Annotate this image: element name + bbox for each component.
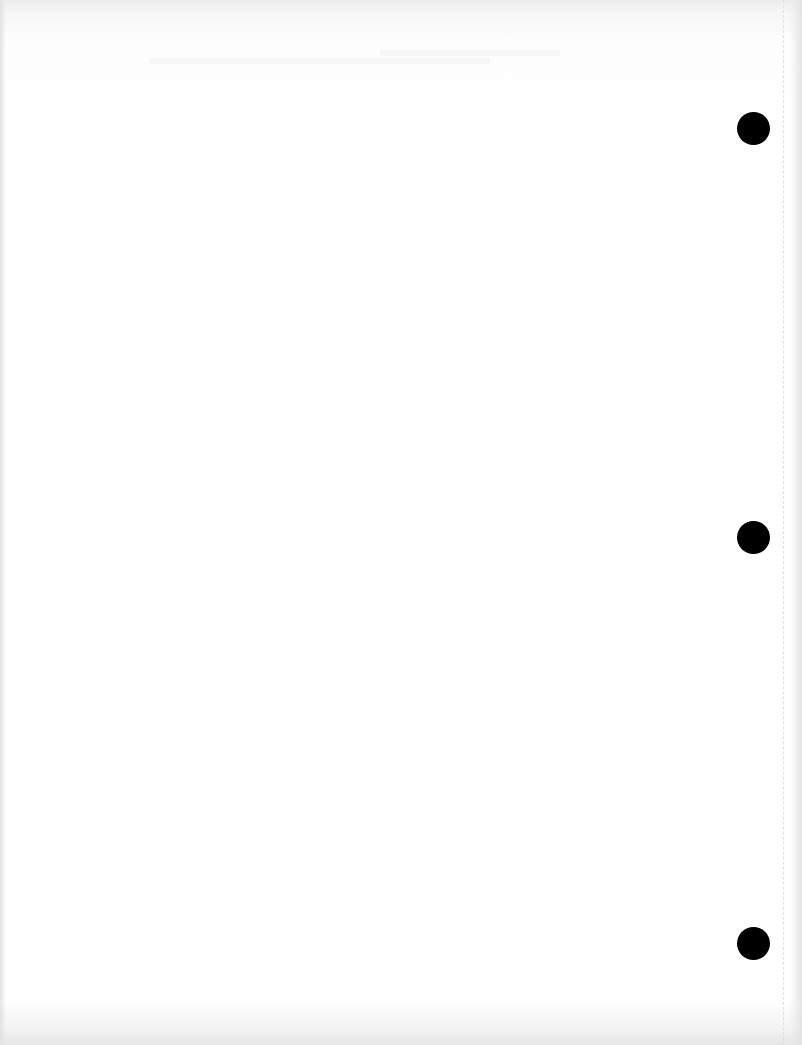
punch-hole-bottom (737, 927, 770, 960)
scan-edge-left (0, 0, 6, 1045)
scan-edge-right (790, 0, 802, 1045)
punch-hole-top (737, 112, 770, 145)
scanned-page (0, 0, 802, 1045)
show-through-text-top (150, 58, 490, 64)
punch-hole-middle (737, 521, 770, 554)
show-through-text-bottom (180, 1026, 540, 1032)
show-through-text-top-2 (380, 50, 560, 56)
perforation-line (783, 0, 784, 1045)
